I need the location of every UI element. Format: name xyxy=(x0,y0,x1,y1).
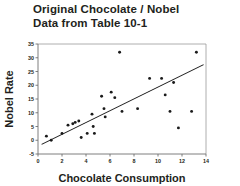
data-point xyxy=(74,121,77,124)
data-point xyxy=(45,135,48,138)
data-point xyxy=(169,110,172,113)
x-tick-label: 6 xyxy=(109,158,112,164)
y-tick-label: 30 xyxy=(28,55,34,61)
data-point xyxy=(103,107,106,110)
x-axis-ticks: 02468101214 xyxy=(37,154,210,164)
data-point xyxy=(67,124,70,127)
y-axis-ticks: -505101520253035 xyxy=(28,41,38,157)
data-point xyxy=(177,126,180,129)
data-point xyxy=(92,125,95,128)
y-tick-label: 35 xyxy=(28,41,34,47)
data-point xyxy=(160,77,163,80)
data-point xyxy=(93,132,96,135)
x-tick-label: 4 xyxy=(85,158,88,164)
data-point xyxy=(77,120,80,123)
y-tick-label: 5 xyxy=(31,124,34,130)
plot-area: -505101520253035 02468101214 Chocolate C… xyxy=(0,0,240,186)
data-point xyxy=(104,115,107,118)
y-tick-label: 10 xyxy=(28,110,34,116)
data-point xyxy=(110,91,113,94)
x-axis-label: Chocolate Consumption xyxy=(58,172,185,184)
data-point xyxy=(172,81,175,84)
data-point xyxy=(190,110,193,113)
data-point xyxy=(100,95,103,98)
data-point xyxy=(91,113,94,116)
data-point xyxy=(86,132,89,135)
data-point xyxy=(121,110,124,113)
y-axis-label: Nobel Rate xyxy=(3,70,15,127)
data-point xyxy=(148,77,151,80)
x-tick-label: 14 xyxy=(203,158,209,164)
chart-figure: Original Chocolate / Nobel Data from Tab… xyxy=(0,0,240,186)
y-tick-label: 15 xyxy=(28,96,34,102)
x-tick-label: 2 xyxy=(61,158,64,164)
data-point xyxy=(136,107,139,110)
data-point xyxy=(80,136,83,139)
y-tick-label: -5 xyxy=(29,151,34,157)
x-tick-label: 12 xyxy=(179,158,185,164)
y-tick-label: 20 xyxy=(28,82,34,88)
regression-line xyxy=(42,65,204,145)
x-tick-label: 10 xyxy=(155,158,161,164)
data-point xyxy=(164,93,167,96)
y-tick-label: 25 xyxy=(28,69,34,75)
plot-axes xyxy=(38,44,206,154)
data-point xyxy=(195,51,198,54)
data-point xyxy=(118,51,121,54)
scatter-series xyxy=(45,51,198,142)
x-tick-label: 8 xyxy=(133,158,136,164)
regression-line-group xyxy=(42,65,204,145)
x-tick-label: 0 xyxy=(37,158,40,164)
plot-frame xyxy=(38,44,206,154)
data-point xyxy=(113,96,116,99)
y-tick-label: 0 xyxy=(31,137,34,143)
